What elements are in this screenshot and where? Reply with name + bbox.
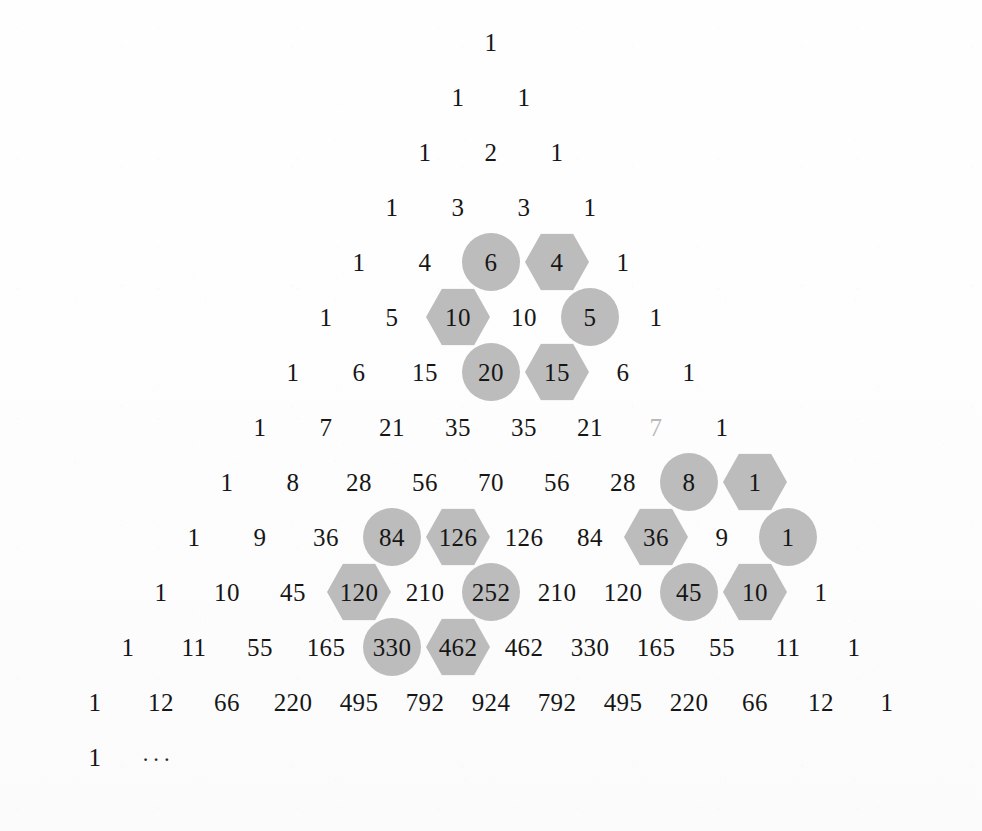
cell-value: 462 [439,635,478,660]
cell-value: 6 [353,360,366,385]
triangle-cell-r6-c3: 20 [459,348,523,396]
cell-value: 462 [505,635,544,660]
triangle-cell-r11-c10: 11 [756,623,820,671]
cell-value: 12 [148,690,174,715]
triangle-cell-r0-c0: 1 [459,18,523,66]
cell-value: 1 [452,85,465,110]
triangle-cell-r6-c0: 1 [261,348,325,396]
cell-value: 1 [155,580,168,605]
cell-value: 120 [340,580,379,605]
cell-value: 56 [544,470,570,495]
cell-value: 9 [254,525,267,550]
triangle-cell-r4-c1: 4 [393,238,457,286]
cell-value: 165 [637,635,676,660]
triangle-cell-r12-c10: 66 [723,678,787,726]
cell-value: 1 [749,470,762,495]
triangle-cell-r5-c0: 1 [294,293,358,341]
cell-value: 7 [650,415,663,440]
triangle-cell-r11-c9: 55 [690,623,754,671]
triangle-cell-r8-c5: 56 [525,458,589,506]
cell-value: 330 [373,635,412,660]
triangle-cell-r6-c5: 6 [591,348,655,396]
triangle-cell-r7-c5: 21 [558,403,622,451]
triangle-cell-r6-c6: 1 [657,348,721,396]
triangle-cell-r9-c3: 84 [360,513,424,561]
cell-value: 1 [188,525,201,550]
cell-value: 11 [776,635,801,660]
triangle-cell-r7-c7: 1 [690,403,754,451]
cell-value: 4 [551,250,564,275]
cell-value: 1 [89,690,102,715]
triangle-cell-r10-c5: 252 [459,568,523,616]
cell-value: 56 [412,470,438,495]
cell-value: 12 [808,690,834,715]
cell-value: 66 [742,690,768,715]
cell-value: 1 [617,250,630,275]
cell-value: 1 [650,305,663,330]
triangle-cell-r7-c0: 1 [228,403,292,451]
triangle-cell-r4-c2: 6 [459,238,523,286]
triangle-cell-r8-c0: 1 [195,458,259,506]
cell-value: 28 [610,470,636,495]
cell-value: 5 [584,305,597,330]
triangle-cell-r4-c3: 4 [525,238,589,286]
cell-value: 126 [505,525,544,550]
triangle-cell-r1-c0: 1 [426,73,490,121]
cell-value: 15 [412,360,438,385]
triangle-cell-r7-c1: 7 [294,403,358,451]
cell-value: 55 [709,635,735,660]
triangle-cell-r12-c12: 1 [855,678,919,726]
cell-value: 1 [485,30,498,55]
cell-value: 252 [472,580,511,605]
cell-value: 792 [406,690,445,715]
triangle-cell-r9-c8: 9 [690,513,754,561]
cell-value: 1 [881,690,894,715]
triangle-cell-r7-c4: 35 [492,403,556,451]
triangle-cell-r11-c0: 1 [96,623,160,671]
cell-value: 495 [340,690,379,715]
cell-value: 1 [782,525,795,550]
cell-value: 220 [670,690,709,715]
triangle-cell-r12-c0: 1 [63,678,127,726]
cell-value: 84 [379,525,405,550]
cell-value: 1 [518,85,531,110]
cell-value: 28 [346,470,372,495]
triangle-cell-r10-c2: 45 [261,568,325,616]
triangle-cell-r7-c2: 21 [360,403,424,451]
cell-value: 210 [538,580,577,605]
triangle-cell-r9-c4: 126 [426,513,490,561]
triangle-cell-r8-c4: 70 [459,458,523,506]
triangle-cell-r4-c4: 1 [591,238,655,286]
triangle-cell-r9-c0: 1 [162,513,226,561]
triangle-cell-r12-c3: 220 [261,678,325,726]
cell-value: 21 [379,415,405,440]
triangle-cell-r13-c0: 1 [63,733,127,781]
triangle-cell-r8-c7: 8 [657,458,721,506]
cell-value: 1 [386,195,399,220]
triangle-cell-r8-c8: 1 [723,458,787,506]
cell-value: 220 [274,690,313,715]
triangle-cell-r8-c6: 28 [591,458,655,506]
cell-value: 36 [643,525,669,550]
triangle-cell-r10-c1: 10 [195,568,259,616]
cell-value: 6 [617,360,630,385]
triangle-cell-r10-c6: 210 [525,568,589,616]
triangle-cell-r7-c6: 7 [624,403,688,451]
cell-value: 924 [472,690,511,715]
pascal-triangle-figure: 1111211331146411510105116152015611721353… [0,0,982,831]
cell-value: 1 [848,635,861,660]
triangle-cell-r10-c9: 10 [723,568,787,616]
triangle-cell-r12-c4: 495 [327,678,391,726]
triangle-cell-r11-c2: 55 [228,623,292,671]
triangle-cell-r3-c2: 3 [492,183,556,231]
cell-value: 66 [214,690,240,715]
triangle-cell-r3-c0: 1 [360,183,424,231]
cell-value: 1 [221,470,234,495]
triangle-cell-r10-c3: 120 [327,568,391,616]
cell-value: 5 [386,305,399,330]
triangle-cell-r9-c9: 1 [756,513,820,561]
triangle-cell-r8-c1: 8 [261,458,325,506]
triangle-cell-r6-c4: 15 [525,348,589,396]
triangle-cell-r5-c2: 10 [426,293,490,341]
cell-value: 6 [485,250,498,275]
